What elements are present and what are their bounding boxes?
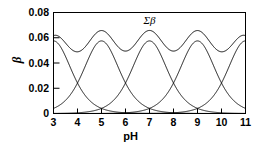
- buffer-curve-3: [54, 41, 246, 113]
- x-tick-label-5: 8: [171, 116, 177, 128]
- x-tick-label-8: 11: [240, 116, 251, 128]
- y-tick-label-2: 0.04: [29, 57, 50, 69]
- x-tick-label-1: 4: [75, 116, 81, 128]
- y-tick-label-3: 0.06: [29, 31, 50, 43]
- chart-canvas: 0 0.02 0.04 0.06 0.08 3 4 5 6 7 8 9 10 1…: [0, 0, 261, 149]
- sum-curve-label: Σβ: [142, 14, 156, 26]
- x-tick-label-0: 3: [51, 116, 57, 128]
- buffer-capacity-chart: 0 0.02 0.04 0.06 0.08 3 4 5 6 7 8 9 10 1…: [0, 0, 261, 149]
- x-tick-label-2: 5: [99, 116, 105, 128]
- y-tick-label-0: 0: [43, 107, 49, 119]
- buffer-curve-5: [54, 41, 246, 114]
- y-tick-label-1: 0.02: [29, 82, 50, 94]
- x-tick-label-6: 9: [195, 116, 201, 128]
- x-tick-label-4: 7: [147, 116, 153, 128]
- x-tick-label-7: 10: [216, 116, 228, 128]
- curve-group: [54, 30, 246, 113]
- buffer-curve-4: [54, 41, 246, 114]
- buffer-curve-1: [54, 41, 246, 114]
- plot-frame: [54, 13, 246, 114]
- y-tick-label-4: 0.08: [29, 6, 50, 18]
- y-axis-label: β: [9, 49, 25, 71]
- buffer-curve-2: [54, 41, 246, 114]
- x-tick-label-3: 6: [123, 116, 129, 128]
- x-axis-label: pH: [0, 130, 261, 142]
- x-tick-labels: 3 4 5 6 7 8 9 10 11: [51, 116, 252, 128]
- y-axis-ticks: [54, 13, 60, 114]
- y-tick-labels: 0 0.02 0.04 0.06 0.08: [29, 6, 50, 119]
